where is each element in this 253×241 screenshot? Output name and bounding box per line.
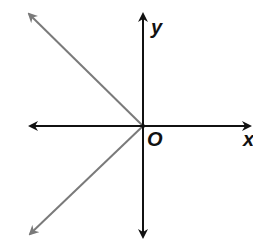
- origin-point: [141, 124, 145, 128]
- y-axis-label: y: [150, 16, 163, 38]
- lower-left-ray: [30, 126, 143, 234]
- upper-left-ray: [29, 14, 143, 126]
- origin-label: O: [147, 128, 163, 150]
- x-axis-label: x: [242, 128, 253, 150]
- coordinate-plane-diagram: y O x: [0, 0, 253, 241]
